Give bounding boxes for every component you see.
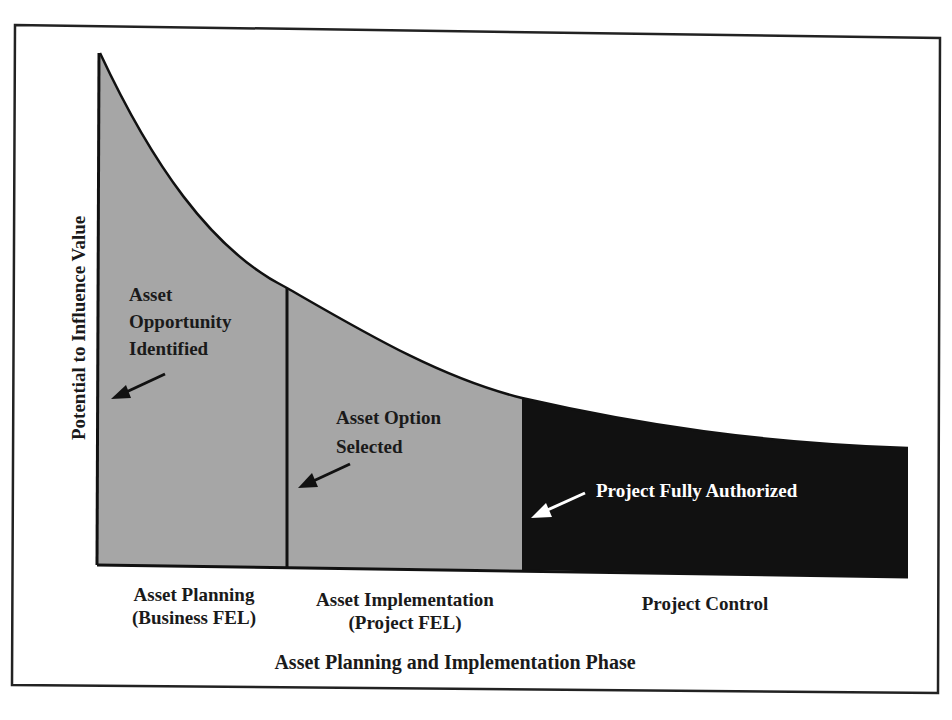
milestone-option-line2: Selected: [336, 432, 441, 461]
phase-planning-line2: (Business FEL): [104, 606, 284, 629]
milestone-opportunity-line2: Opportunity: [129, 308, 231, 335]
phase-label-planning: Asset Planning (Business FEL): [104, 583, 284, 629]
milestone-opportunity-line1: Asset: [129, 281, 231, 308]
y-axis-label: Potential to Influence Value: [68, 216, 90, 440]
phase-control-line1: Project Control: [600, 592, 810, 615]
phase-implementation-line2: (Project FEL): [290, 611, 520, 634]
milestone-option-label: Asset Option Selected: [336, 403, 441, 461]
phase-implementation-line1: Asset Implementation: [290, 588, 520, 611]
milestone-authorized-line1: Project Fully Authorized: [596, 479, 797, 502]
milestone-opportunity-line3: Identified: [129, 335, 231, 362]
y-axis-line: [97, 53, 99, 565]
phase-label-control: Project Control: [600, 592, 810, 615]
phase-planning-line1: Asset Planning: [104, 583, 284, 606]
phase-label-implementation: Asset Implementation (Project FEL): [290, 588, 520, 634]
milestone-opportunity-label: Asset Opportunity Identified: [129, 281, 231, 362]
x-axis-title: Asset Planning and Implementation Phase: [200, 651, 710, 674]
milestone-authorized-label: Project Fully Authorized: [596, 479, 797, 502]
milestone-option-line1: Asset Option: [336, 403, 441, 432]
